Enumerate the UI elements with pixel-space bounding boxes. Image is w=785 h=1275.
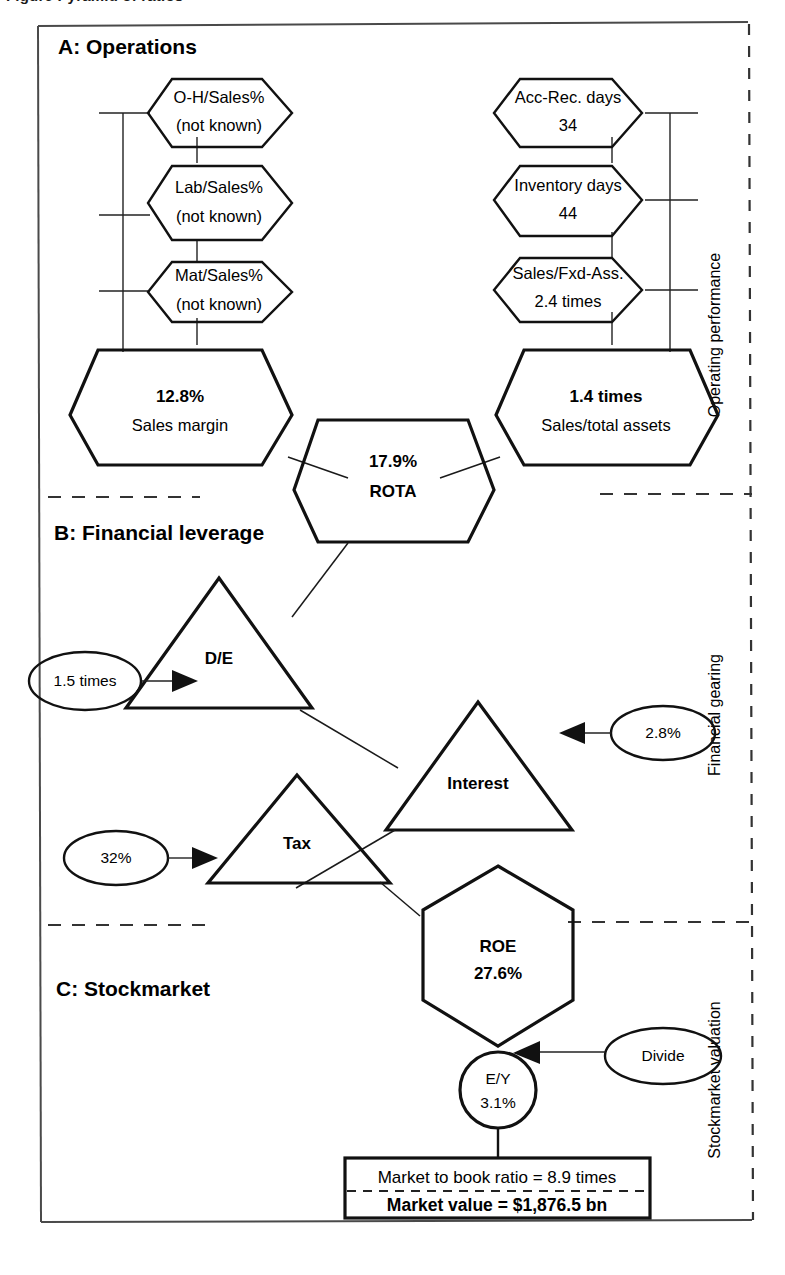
hex-lab-sales: Lab/Sales% (not known) xyxy=(148,166,292,240)
hex-mat-sales: Mat/Sales% (not known) xyxy=(148,262,292,322)
side-label-b-text: Financial gearing xyxy=(706,654,723,776)
hex-sales-fxd-ass: Sales/Fxd-Ass. 2.4 times xyxy=(494,258,642,322)
hex-inventory-line2: 44 xyxy=(559,204,577,222)
arrow-interest-input xyxy=(559,722,611,744)
sales-margin-label: Sales margin xyxy=(132,416,228,434)
interest-input-value: 2.8% xyxy=(645,724,681,741)
ellipse-de-input: 1.5 times xyxy=(29,652,141,710)
side-label-stockmarket-valuation: Stockmarket valuation xyxy=(706,1001,723,1158)
link-tax-to-roe xyxy=(380,882,420,916)
diagram-canvas: Operating performance Financial gearing … xyxy=(0,0,785,1275)
ellipse-interest-input: 2.8% xyxy=(611,706,715,760)
ey-value: 3.1% xyxy=(480,1094,516,1111)
outer-frame xyxy=(38,22,753,1222)
hex-sales-fxd-line2: 2.4 times xyxy=(535,292,602,310)
link-de-to-interest xyxy=(300,710,398,768)
triangle-tax-label: Tax xyxy=(283,834,312,853)
market-to-book-text: Market to book ratio = 8.9 times xyxy=(378,1168,617,1187)
rota-label: ROTA xyxy=(370,482,417,501)
hex-roe: ROE 27.6% xyxy=(423,866,573,1046)
triangle-de: D/E xyxy=(126,578,312,708)
de-input-value: 1.5 times xyxy=(54,672,117,689)
rota-value: 17.9% xyxy=(369,452,417,471)
link-margin-to-rota xyxy=(288,457,348,478)
section-a-heading: A: Operations xyxy=(58,35,197,58)
ratio-pyramid-diagram: Figure Pyramid of ratios Operating perfo… xyxy=(0,0,785,1275)
section-b-heading: B: Financial leverage xyxy=(54,521,264,544)
hex-lab-sales-line1: Lab/Sales% xyxy=(175,178,263,196)
sales-total-assets-value: 1.4 times xyxy=(570,387,643,406)
triangle-de-label: D/E xyxy=(205,649,233,668)
hex-oh-sales-line1: O-H/Sales% xyxy=(174,88,265,106)
sales-margin-value: 12.8% xyxy=(156,387,204,406)
sales-total-assets-label: Sales/total assets xyxy=(541,416,670,434)
roe-label: ROE xyxy=(480,937,517,956)
hex-lab-sales-line2: (not known) xyxy=(176,207,262,225)
arrow-tax-input xyxy=(168,847,218,869)
side-label-financial-gearing: Financial gearing xyxy=(706,654,723,776)
section-c-heading: C: Stockmarket xyxy=(56,977,210,1000)
hex-acc-rec-days: Acc-Rec. days 34 xyxy=(494,79,642,147)
hex-inventory-line1: Inventory days xyxy=(514,176,621,194)
hex-sales-total-assets: 1.4 times Sales/total assets xyxy=(496,350,718,465)
ey-label: E/Y xyxy=(486,1070,511,1087)
triangle-tax: Tax xyxy=(208,775,390,883)
hex-sales-fxd-line1: Sales/Fxd-Ass. xyxy=(513,264,624,282)
section-divider-b-c xyxy=(48,922,752,925)
hex-rota: 17.9% ROTA xyxy=(294,420,494,542)
divide-label: Divide xyxy=(641,1047,684,1064)
hex-mat-sales-line2: (not known) xyxy=(176,295,262,313)
market-value-text: Market value = $1,876.5 bn xyxy=(387,1195,607,1215)
circle-ey: E/Y 3.1% xyxy=(460,1052,536,1128)
ellipse-tax-input: 32% xyxy=(64,831,168,885)
link-assets-to-rota xyxy=(440,457,500,478)
right-bus-connector xyxy=(612,113,698,352)
hex-inventory-days: Inventory days 44 xyxy=(494,166,642,236)
tax-input-value: 32% xyxy=(100,849,131,866)
hex-oh-sales: O-H/Sales% (not known) xyxy=(148,79,292,147)
hex-mat-sales-line1: Mat/Sales% xyxy=(175,266,263,284)
market-value-box: Market to book ratio = 8.9 times Market … xyxy=(345,1158,650,1218)
hex-oh-sales-line2: (not known) xyxy=(176,116,262,134)
ellipse-divide: Divide xyxy=(605,1028,721,1084)
triangle-interest: Interest xyxy=(386,702,572,830)
hex-sales-margin: 12.8% Sales margin xyxy=(70,350,292,465)
left-bus-connector xyxy=(99,113,197,352)
hex-acc-rec-line2: 34 xyxy=(559,116,577,134)
hex-acc-rec-line1: Acc-Rec. days xyxy=(515,88,621,106)
side-label-c-text: Stockmarket valuation xyxy=(706,1001,723,1158)
arrow-divide-to-ey xyxy=(513,1041,605,1064)
triangle-interest-label: Interest xyxy=(447,774,509,793)
link-rota-to-de xyxy=(292,543,348,617)
roe-value: 27.6% xyxy=(474,964,522,983)
